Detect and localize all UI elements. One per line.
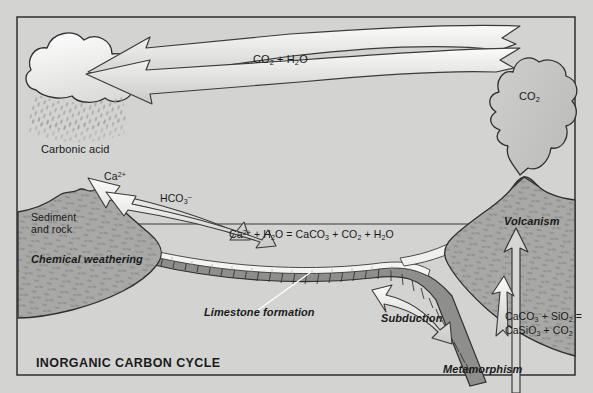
- sediment-and-rock-label: Sedimentand rock: [31, 211, 76, 235]
- atmosphere-reaction-label: CO2 + H2O: [253, 53, 308, 67]
- inorganic-carbon-cycle-figure: CO2 + H2O CO2 Carbonic acid Ca2+ HCO3– S…: [0, 0, 593, 393]
- ocean-reaction-label: Ca2+ + H2O = CaCO3 + CO2 + H2O: [229, 228, 394, 242]
- metamorphism-label: Metamorphism: [443, 363, 522, 376]
- chemical-weathering-label: Chemical weathering: [31, 253, 143, 266]
- carbonic-acid-label: Carbonic acid: [41, 143, 110, 156]
- subduction-label: Subduction: [381, 312, 443, 325]
- volcanism-label: Volcanism: [504, 215, 560, 228]
- volcanic-gas-label: CO2: [519, 90, 540, 104]
- limestone-formation-label: Limestone formation: [204, 306, 315, 319]
- calcium-ion-label: Ca2+: [104, 170, 126, 182]
- bicarbonate-ion-label: HCO3–: [160, 192, 192, 206]
- page-title: INORGANIC CARBON CYCLE: [36, 356, 221, 370]
- metamorphism-reaction-label: CaCO3 + SiO2 =CaSiO3 + CO2: [505, 310, 582, 338]
